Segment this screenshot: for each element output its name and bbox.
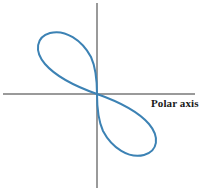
lemniscate-loop-upper-left	[38, 32, 97, 94]
lemniscate-loop-lower-right	[97, 94, 156, 156]
polar-axis-label: Polar axis	[151, 97, 199, 109]
polar-plot-figure: Polar axis	[0, 0, 200, 193]
